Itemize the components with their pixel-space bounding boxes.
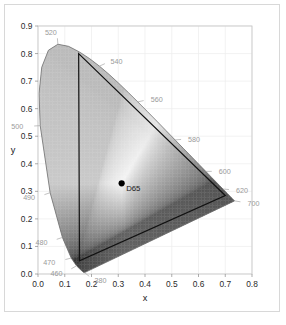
wavelength-label: 380 — [95, 276, 107, 285]
x-tick-label: 0.1 — [59, 279, 71, 289]
x-tick-label: 0.7 — [219, 279, 231, 289]
chromaticity-chart: 0.00.10.20.30.40.50.60.70.8 0.00.10.20.3… — [5, 5, 281, 313]
wavelength-label: 470 — [43, 258, 55, 267]
white-point-marker — [119, 180, 125, 186]
x-tick-label: 0.0 — [32, 279, 44, 289]
wavelength-label: 520 — [45, 28, 57, 37]
figure-frame: 0.00.10.20.30.40.50.60.70.8 0.00.10.20.3… — [4, 4, 280, 312]
y-tick-label: 0.8 — [21, 49, 33, 59]
y-tick-label: 0.4 — [21, 159, 33, 169]
y-tick-label: 0.9 — [21, 21, 33, 31]
x-tick-label: 0.3 — [112, 279, 124, 289]
wavelength-label: 700 — [248, 199, 260, 208]
y-tick-label: 0.1 — [21, 241, 33, 251]
wavelength-label: 460 — [51, 269, 63, 278]
white-point-label: D65 — [126, 184, 141, 193]
x-tick-label: 0.5 — [166, 279, 178, 289]
y-axis-title: y — [11, 145, 16, 155]
x-axis: 0.00.10.20.30.40.50.60.70.8 — [32, 274, 258, 289]
y-tick-label: 0.7 — [21, 76, 33, 86]
x-tick-label: 0.8 — [246, 279, 258, 289]
x-tick-label: 0.4 — [139, 279, 151, 289]
spectral-locus-fill — [38, 26, 253, 276]
y-tick-label: 0.6 — [21, 104, 33, 114]
wavelength-label: 580 — [188, 135, 200, 144]
wavelength-label: 500 — [11, 122, 23, 131]
wavelength-label: 560 — [151, 95, 163, 104]
wavelength-label: 620 — [236, 186, 248, 195]
wavelength-label: 480 — [35, 238, 47, 247]
wavelength-label: 540 — [110, 57, 122, 66]
wavelength-label: 490 — [23, 193, 35, 202]
y-tick-label: 0.0 — [21, 269, 33, 279]
y-tick-label: 0.5 — [21, 131, 33, 141]
wavelength-label: 600 — [219, 167, 231, 176]
x-axis-title: x — [143, 293, 148, 303]
y-tick-label: 0.2 — [21, 214, 33, 224]
x-tick-label: 0.6 — [193, 279, 205, 289]
